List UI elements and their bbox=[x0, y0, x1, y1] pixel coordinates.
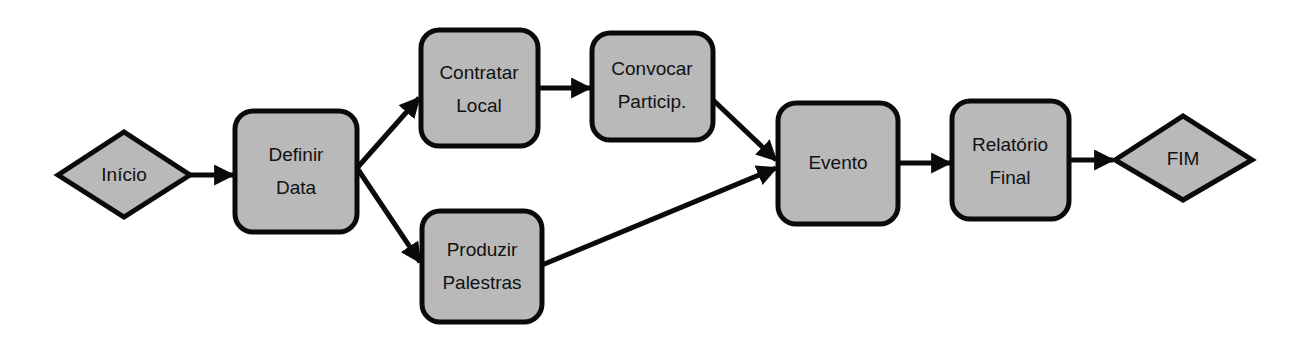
process-box-shape bbox=[421, 30, 538, 146]
process-box-shape bbox=[235, 111, 357, 232]
node-label-line-1: Definir bbox=[269, 144, 325, 165]
node-label-line-2: Data bbox=[276, 177, 317, 198]
node-evento[interactable]: Evento bbox=[778, 103, 898, 224]
process-box-shape bbox=[952, 101, 1069, 219]
process-box-shape bbox=[592, 33, 713, 140]
node-label-line-2: Final bbox=[989, 167, 1030, 188]
node-label: FIM bbox=[1167, 148, 1200, 169]
node-contratar-local[interactable]: Contratar Local bbox=[421, 30, 538, 146]
node-label-line-1: Contratar bbox=[439, 62, 519, 83]
node-produzir-palestras[interactable]: Produzir Palestras bbox=[422, 211, 542, 322]
node-inicio[interactable]: Início bbox=[58, 132, 190, 217]
node-label-line-1: Convocar bbox=[611, 58, 693, 79]
node-convocar-particip[interactable]: Convocar Particip. bbox=[592, 33, 713, 140]
node-label-line-2: Local bbox=[456, 95, 501, 116]
node-fim[interactable]: FIM bbox=[1115, 116, 1252, 200]
flowchart-canvas: Início Definir Data Contratar Local Conv… bbox=[0, 0, 1306, 341]
edge-produzir-evento bbox=[542, 168, 776, 265]
node-label-line-2: Particip. bbox=[618, 91, 687, 112]
node-label-line-1: Relatório bbox=[972, 134, 1048, 155]
node-definir-data[interactable]: Definir Data bbox=[235, 111, 357, 232]
edge-definir-produzir bbox=[357, 168, 420, 262]
node-relatorio-final[interactable]: Relatório Final bbox=[952, 101, 1069, 219]
edge-convocar-evento bbox=[713, 100, 776, 160]
node-label: Início bbox=[101, 164, 146, 185]
node-label-line-1: Produzir bbox=[447, 239, 518, 260]
node-label: Evento bbox=[808, 152, 867, 173]
edge-definir-contratar bbox=[357, 98, 419, 168]
node-label-line-2: Palestras bbox=[442, 272, 521, 293]
process-box-shape bbox=[422, 211, 542, 322]
